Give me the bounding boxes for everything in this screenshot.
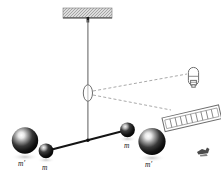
label-large-sphere-right: m′ <box>145 160 153 169</box>
light-source-lamp <box>188 67 198 87</box>
large-sphere-right <box>138 128 166 162</box>
diagram-canvas: m′ m m m′ <box>0 0 221 173</box>
label-large-sphere-left: m′ <box>18 159 26 168</box>
label-small-sphere-left: m <box>42 163 48 172</box>
mirror-ellipse <box>83 85 92 101</box>
label-small-sphere-right: m <box>124 141 130 150</box>
large-sphere-left <box>11 127 39 161</box>
